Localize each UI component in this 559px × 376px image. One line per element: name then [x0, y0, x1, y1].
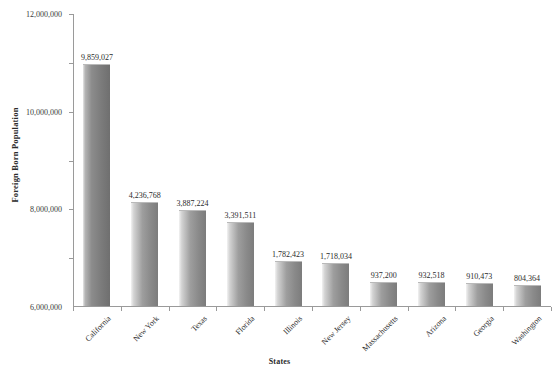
x-axis-tick: [121, 307, 122, 311]
bar[interactable]: 4,236,768: [131, 202, 158, 306]
y-axis-tick-label: 12,000,000: [26, 10, 62, 19]
bar[interactable]: 910,473: [466, 283, 493, 306]
bar[interactable]: 804,364: [514, 285, 541, 306]
x-axis-tick: [503, 307, 504, 311]
bar-value-label: 4,236,768: [129, 191, 161, 200]
bar[interactable]: 932,518: [418, 282, 445, 306]
bar-value-label: 937,200: [371, 271, 397, 280]
x-axis-tick: [408, 307, 409, 311]
y-axis-tick: 2,000,000: [69, 258, 74, 259]
y-axis-tick: 10,000,000: [69, 63, 74, 64]
bar-value-label: 932,518: [419, 271, 445, 280]
bar-value-label: 1,718,034: [320, 252, 352, 261]
bar[interactable]: 1,782,423: [275, 261, 302, 306]
x-axis-tick: [73, 307, 74, 311]
plot-area: 12,000,00010,000,0008,000,0006,000,0004,…: [73, 14, 551, 307]
bar-value-label: 910,473: [466, 272, 492, 281]
y-axis-tick-label: 10,000,000: [26, 107, 62, 116]
y-axis-tick-label: 8,000,000: [30, 205, 62, 214]
x-axis-tick: [360, 307, 361, 311]
bar-value-label: 804,364: [514, 274, 540, 283]
bar[interactable]: 3,887,224: [179, 210, 206, 306]
x-axis-tick: [264, 307, 265, 311]
x-axis-category-label: Georgia: [471, 314, 495, 338]
y-axis-tick: 4,000,000: [69, 209, 74, 210]
x-axis-category-label: New Jersey: [320, 314, 353, 347]
x-axis-category-label: Arizona: [423, 314, 448, 339]
y-axis-tick-label: 6,000,000: [30, 303, 62, 312]
x-axis-category-label: Massachusetts: [361, 314, 400, 353]
bar-value-label: 9,859,027: [81, 53, 113, 62]
x-axis-category-label: New York: [132, 314, 161, 343]
x-axis-tick: [455, 307, 456, 311]
x-axis-tick: [169, 307, 170, 311]
x-axis-category-label: California: [84, 314, 113, 343]
x-axis-title: States: [0, 357, 559, 366]
y-axis-tick: 6,000,000: [69, 161, 74, 162]
x-axis-category-label: Texas: [189, 314, 208, 333]
bar-value-label: 3,391,511: [224, 211, 256, 220]
bar-value-label: 1,782,423: [272, 250, 304, 259]
x-axis-category-label: Florida: [234, 314, 257, 337]
y-axis-title-text: Foreign Born Population: [10, 107, 20, 202]
x-axis-category-label: Washington: [510, 314, 543, 347]
x-axis-tick: [312, 307, 313, 311]
x-axis-tick: [216, 307, 217, 311]
y-axis-tick: 12,000,000: [69, 14, 74, 15]
bar[interactable]: 1,718,034: [322, 263, 349, 306]
x-axis-category-label: Illinois: [282, 314, 304, 336]
bar[interactable]: 937,200: [370, 282, 397, 306]
y-axis-title: Foreign Born Population: [4, 0, 26, 310]
bar-value-label: 3,887,224: [177, 199, 209, 208]
x-axis-tick: [551, 307, 552, 311]
bar[interactable]: 3,391,511: [227, 222, 254, 306]
bar[interactable]: 9,859,027: [83, 64, 110, 306]
bar-chart: Foreign Born Population 12,000,00010,000…: [0, 0, 559, 376]
y-axis-tick: 8,000,000: [69, 112, 74, 113]
